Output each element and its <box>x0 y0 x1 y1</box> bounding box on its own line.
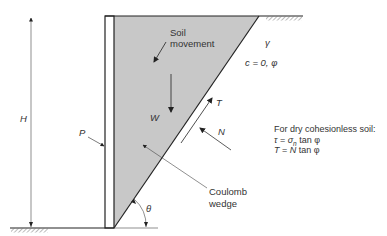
soil-movement-label-2: movement <box>170 38 214 49</box>
retaining-wall <box>105 16 114 228</box>
soil-movement-label-1: Soil <box>170 27 186 38</box>
weight-label: W <box>150 112 159 123</box>
equals: = <box>277 135 287 145</box>
shear-force-label: T <box>216 97 222 108</box>
tan-phi: tan φ <box>296 145 319 155</box>
equals: = <box>280 145 290 155</box>
coulomb-wedge-diagram <box>0 0 387 236</box>
note-equation-shear-force: T = N tan φ <box>274 145 320 156</box>
wedge-label-1: Coulomb <box>209 186 247 197</box>
strength-params-label: c = 0, φ <box>245 57 277 68</box>
note-heading: For dry cohesionless soil: <box>274 124 376 135</box>
ground-hatch-base <box>11 229 48 233</box>
angle-label: θ <box>146 203 151 214</box>
wall-force-label: P <box>79 127 85 138</box>
angle-arc <box>134 199 146 227</box>
ground-hatch-top <box>266 17 302 21</box>
wall-force-arrow <box>88 137 104 146</box>
tan-phi: tan φ <box>297 135 320 145</box>
wedge-label-2: wedge <box>209 198 237 209</box>
normal-force-label: N <box>218 126 225 137</box>
height-label: H <box>20 113 27 124</box>
unit-weight-label: γ <box>265 37 270 48</box>
normal-force-arrow <box>200 128 231 150</box>
